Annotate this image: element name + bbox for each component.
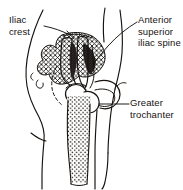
anatomy-figure: Iliac crest Anterior superior iliac spin… (0, 0, 183, 190)
label-iliac-crest: Iliac crest (9, 14, 30, 37)
label-greater-trochanter: Greater trochanter (130, 97, 174, 120)
leader-iliac-crest (44, 26, 70, 35)
anatomy-linework (26, 8, 137, 189)
label-anterior-superior-iliac-spine: Anterior superior iliac spine (138, 14, 181, 49)
